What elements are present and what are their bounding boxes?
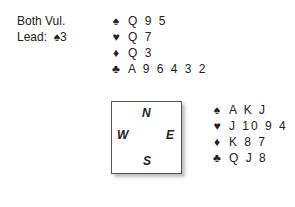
north-clubs: A 9 6 4 3 2 [128,61,207,77]
spade-icon: ♠ [205,102,229,118]
compass-north: N [142,106,151,120]
north-spades-row: ♠ Q 9 5 [104,13,207,29]
diamond-icon: ♦ [205,134,229,150]
east-hand: ♠ A K J ♥ J 10 9 4 ♦ K 8 7 ♣ Q J 8 [205,102,288,166]
north-hearts: Q 7 [128,29,153,45]
north-hearts-row: ♥ Q 7 [104,29,207,45]
east-spades-row: ♠ A K J [205,102,288,118]
east-diamonds: K 8 7 [229,134,267,150]
compass-south: S [143,154,151,168]
north-diamonds: Q 3 [128,45,153,61]
north-clubs-row: ♣ A 9 6 4 3 2 [104,61,207,77]
lead-label: Lead: [17,30,47,44]
east-hearts-row: ♥ J 10 9 4 [205,118,288,134]
lead-card: ♠3 [54,30,67,44]
north-diamonds-row: ♦ Q 3 [104,45,207,61]
diamond-icon: ♦ [104,45,128,61]
east-hearts: J 10 9 4 [229,118,288,134]
heart-icon: ♥ [205,118,229,134]
east-clubs-row: ♣ Q J 8 [205,150,288,166]
east-clubs: Q J 8 [229,150,268,166]
spade-icon: ♠ [104,13,128,29]
opening-lead: Lead: ♠3 [17,29,67,45]
north-hand: ♠ Q 9 5 ♥ Q 7 ♦ Q 3 ♣ A 9 6 4 3 2 [104,13,207,77]
east-spades: A K J [229,102,267,118]
east-diamonds-row: ♦ K 8 7 [205,134,288,150]
vulnerability-label: Both Vul. [17,13,67,29]
club-icon: ♣ [104,61,128,77]
deal-info: Both Vul. Lead: ♠3 [17,13,67,45]
club-icon: ♣ [205,150,229,166]
compass-west: W [117,128,128,142]
heart-icon: ♥ [104,29,128,45]
compass-box: N W E S [111,101,182,174]
compass-east: E [166,128,174,142]
north-spades: Q 9 5 [128,13,167,29]
